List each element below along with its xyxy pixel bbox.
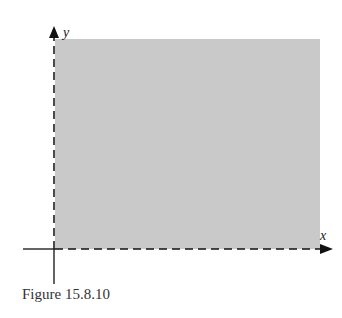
- y-axis-arrow-icon: [49, 26, 59, 38]
- x-axis-arrow-icon: [320, 244, 333, 254]
- figure-caption: Figure 15.8.10: [22, 286, 110, 303]
- figure-diagram: y x: [0, 0, 342, 318]
- y-axis-label: y: [61, 25, 70, 40]
- shaded-region: [55, 39, 320, 249]
- x-axis-label: x: [319, 228, 327, 243]
